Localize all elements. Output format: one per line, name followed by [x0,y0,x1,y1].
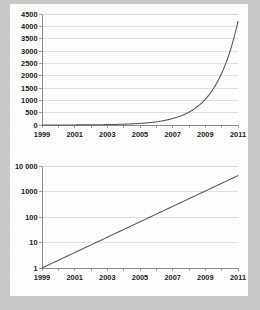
chart-paper-panel: 0500100015002000250030003500400045001999… [10,4,248,296]
data-series-line [42,21,238,125]
x-axis-tick-label: 1999 [34,273,50,282]
x-axis-tick-label: 2009 [197,130,213,139]
x-axis-tick-label: 2007 [164,273,180,282]
x-axis-tick-label: 2003 [99,273,115,282]
y-axis-tick-label: 3000 [21,47,37,56]
x-axis-tick-label: 2011 [230,273,246,282]
y-axis-tick-label: 10 000 [15,162,38,171]
x-axis-tick-label: 2007 [164,130,180,139]
x-axis-tick-label: 2005 [132,130,148,139]
y-axis-tick-label: 3500 [21,34,37,43]
x-axis-tick-label: 2003 [99,130,115,139]
linear-scale-chart: 0500100015002000250030003500400045001999… [10,4,248,150]
log-scale-chart: 110100100010 000199920012003200520072009… [10,154,248,296]
linear-chart-canvas: 0500100015002000250030003500400045001999… [10,4,248,150]
x-axis-tick-label: 1999 [34,130,50,139]
y-axis-tick-label: 100 [25,213,37,222]
y-axis-tick-label: 1000 [21,96,37,105]
y-axis-tick-label: 2000 [21,71,37,80]
x-axis-tick-label: 2005 [132,273,148,282]
y-axis-tick-label: 2500 [21,59,37,68]
y-axis-tick-label: 4000 [21,22,37,31]
log-chart-canvas: 110100100010 000199920012003200520072009… [10,154,248,296]
x-axis-tick-label: 2001 [66,130,82,139]
data-series-line [42,176,238,268]
x-axis-tick-label: 2001 [66,273,82,282]
y-axis-tick-label: 0 [33,121,37,130]
y-axis-tick-label: 4500 [21,10,37,19]
x-axis-tick-label: 2011 [230,130,246,139]
y-axis-tick-label: 1000 [21,187,37,196]
y-axis-tick-label: 10 [29,238,37,247]
x-axis-tick-label: 2009 [197,273,213,282]
y-axis-tick-label: 1500 [21,84,37,93]
y-axis-tick-label: 1 [33,264,37,273]
page-root: 0500100015002000250030003500400045001999… [0,0,260,310]
y-axis-tick-label: 500 [25,108,37,117]
